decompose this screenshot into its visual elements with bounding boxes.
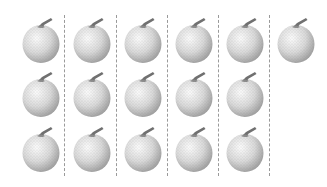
- melon-icon: [123, 70, 163, 118]
- melon-icon: [225, 125, 265, 173]
- dashed-divider: [64, 15, 65, 176]
- melon-icon: [276, 16, 316, 64]
- melon-icon: [72, 70, 112, 118]
- dashed-divider: [167, 15, 168, 176]
- dashed-divider: [218, 15, 219, 176]
- melon-icon: [21, 70, 61, 118]
- melon-icon: [123, 16, 163, 64]
- melon-icon: [21, 125, 61, 173]
- melon-icon: [174, 70, 214, 118]
- dashed-divider: [269, 15, 270, 176]
- melon-icon: [72, 16, 112, 64]
- melon-icon: [123, 125, 163, 173]
- melon-icon: [174, 125, 214, 173]
- melon-icon: [225, 70, 265, 118]
- melon-icon: [21, 16, 61, 64]
- melon-icon: [72, 125, 112, 173]
- melon-icon: [174, 16, 214, 64]
- melon-icon: [225, 16, 265, 64]
- dashed-divider: [116, 15, 117, 176]
